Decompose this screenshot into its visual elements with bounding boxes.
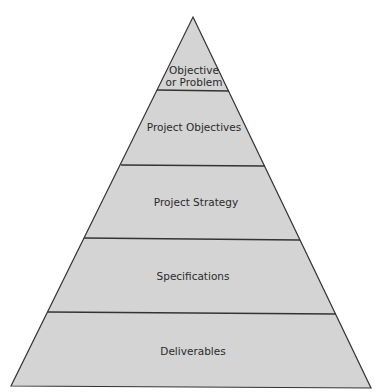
pyramid-level-1: Objective or Problem	[165, 64, 222, 88]
level-4-label: Specifications	[157, 270, 230, 282]
pyramid-level-4: Specifications	[157, 270, 230, 282]
pyramid-level-5: Deliverables	[160, 345, 225, 357]
pyramid-diagram: Objective or Problem Project Objectives …	[0, 0, 385, 392]
level-5-label: Deliverables	[160, 345, 225, 357]
level-2-label: Project Objectives	[147, 121, 242, 133]
pyramid-level-2: Project Objectives	[147, 121, 242, 133]
level-1-label-line-1: Objective	[169, 64, 219, 76]
pyramid-level-3: Project Strategy	[154, 196, 238, 208]
level-1-label-line-2: or Problem	[165, 76, 222, 88]
level-3-label: Project Strategy	[154, 196, 238, 208]
